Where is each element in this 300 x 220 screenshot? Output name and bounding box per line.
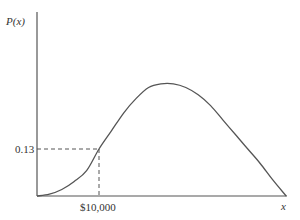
probability-density-chart bbox=[0, 0, 300, 220]
y-tick-label: 0.13 bbox=[15, 144, 34, 155]
density-curve bbox=[37, 83, 286, 196]
x-axis-label: x bbox=[281, 201, 286, 212]
y-axis-label: P(x) bbox=[6, 16, 25, 27]
x-tick-label: $10,000 bbox=[80, 202, 116, 213]
